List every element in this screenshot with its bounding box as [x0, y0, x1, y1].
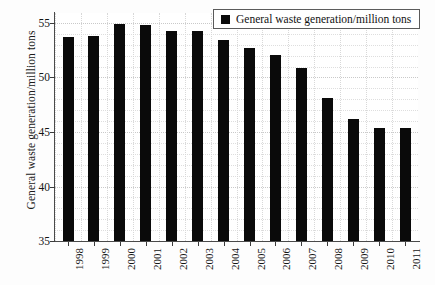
grid-line-vertical [392, 13, 393, 241]
bar [244, 48, 255, 241]
x-axis-tick-label: 2005 [255, 248, 267, 270]
x-axis-tick-mark [327, 242, 328, 246]
grid-line-vertical [237, 13, 238, 241]
x-axis-tick-mark [198, 242, 199, 246]
bar-chart-figure: General waste generation/million tons 35… [0, 0, 435, 285]
grid-line-vertical [262, 13, 263, 241]
grid-line-vertical [185, 13, 186, 241]
grid-line-vertical [81, 13, 82, 241]
x-axis-tick-label: 2010 [384, 248, 396, 270]
x-axis-tick-label: 2001 [151, 248, 163, 270]
x-axis-tick-label: 2004 [229, 248, 241, 270]
chart-legend: General waste generation/million tons [213, 9, 420, 29]
x-axis-tick-mark [146, 242, 147, 246]
bar [400, 128, 411, 242]
bar [88, 36, 99, 241]
grid-line-vertical [211, 13, 212, 241]
y-axis-tick-labels: 3540455055 [22, 0, 50, 285]
grid-line-vertical [366, 13, 367, 241]
x-axis-tick-mark [172, 242, 173, 246]
x-axis-tick-mark [405, 242, 406, 246]
bar [192, 31, 203, 242]
grid-line-vertical [340, 13, 341, 241]
bar [218, 40, 229, 241]
y-axis-tick-label: 45 [24, 126, 50, 138]
x-axis-tick-label: 2009 [358, 248, 370, 270]
x-axis-tick-mark [250, 242, 251, 246]
x-axis-tick-label: 2008 [332, 248, 344, 270]
bar [296, 68, 307, 242]
grid-line-vertical [107, 13, 108, 241]
legend-label: General waste generation/million tons [236, 13, 411, 25]
y-axis-tick-label: 50 [24, 71, 50, 83]
y-axis-tick-mark [50, 187, 55, 188]
y-axis-tick-label: 40 [24, 181, 50, 193]
grid-line-vertical [159, 13, 160, 241]
y-axis-tick-mark [50, 241, 55, 242]
bar [322, 98, 333, 241]
grid-line-vertical [55, 13, 56, 241]
x-axis-tick-label: 2006 [280, 248, 292, 270]
plot-area [55, 13, 418, 241]
bar [63, 37, 74, 241]
x-axis-tick-label: 2000 [125, 248, 137, 270]
grid-line-vertical [133, 13, 134, 241]
x-axis-tick-mark [379, 242, 380, 246]
grid-line-vertical [288, 13, 289, 241]
x-axis-tick-mark [120, 242, 121, 246]
bar [374, 128, 385, 242]
x-axis-tick-label: 1999 [99, 248, 111, 270]
x-axis-tick-mark [94, 242, 95, 246]
bar [166, 31, 177, 242]
x-axis-tick-mark [275, 242, 276, 246]
x-axis-tick-label: 2011 [410, 248, 422, 270]
x-axis-tick-label: 2002 [177, 248, 189, 270]
x-axis-tick-label: 2007 [306, 248, 318, 270]
x-axis-line [54, 241, 420, 242]
bar [140, 25, 151, 241]
x-axis-tick-label: 1998 [73, 248, 85, 270]
x-axis-tick-label: 2003 [203, 248, 215, 270]
legend-swatch-icon [221, 15, 230, 24]
x-axis-tick-mark [68, 242, 69, 246]
x-axis-tick-mark [301, 242, 302, 246]
grid-line-vertical [314, 13, 315, 241]
y-axis-tick-label: 55 [24, 17, 50, 29]
x-axis-tick-mark [224, 242, 225, 246]
x-axis-tick-mark [353, 242, 354, 246]
bar [114, 24, 125, 241]
bar [270, 55, 281, 242]
bar [348, 119, 359, 241]
y-axis-tick-mark [50, 23, 55, 24]
y-axis-tick-mark [50, 132, 55, 133]
y-axis-tick-label: 35 [24, 235, 50, 247]
y-axis-tick-mark [50, 77, 55, 78]
